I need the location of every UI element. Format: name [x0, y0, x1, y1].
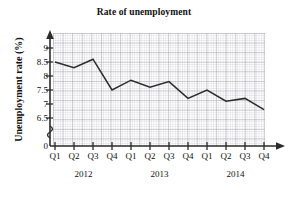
y-tick-label: 8.5 — [22, 58, 48, 67]
x-tick-labels: Q1Q2Q3Q4Q1Q2Q3Q4Q1Q2Q3Q4 — [0, 152, 288, 164]
x-tick-label: Q4 — [253, 152, 275, 161]
x-group-label: 2014 — [216, 170, 256, 179]
x-group-labels: 201220132014 — [0, 170, 288, 182]
y-tick-label: 7 — [22, 100, 48, 109]
x-group-label: 2013 — [140, 170, 180, 179]
y-tick-label: 7.5 — [22, 86, 48, 95]
y-tick-label: 6.5 — [22, 114, 48, 123]
y-tick-label: 8 — [22, 72, 48, 81]
chart-figure: Rate of unemployment Unemployment rate (… — [0, 0, 288, 204]
x-group-label: 2012 — [64, 170, 104, 179]
y-tick-label: 9 — [22, 44, 48, 53]
y-tick-label: 0 — [22, 142, 48, 151]
axis-lines — [38, 26, 288, 156]
